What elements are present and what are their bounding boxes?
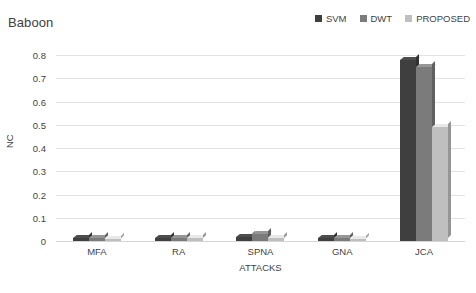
bar-group-mfa <box>56 55 138 241</box>
bar-svm-mfa[interactable] <box>73 238 89 241</box>
bar-proposed-spna[interactable] <box>268 238 284 241</box>
bar-proposed-mfa[interactable] <box>105 239 121 241</box>
bars <box>400 55 448 241</box>
y-axis-tick-label: 0.1 <box>6 212 46 223</box>
chart-legend: SVMDWTPROPOSED <box>315 13 470 24</box>
y-axis-tick-label: 0.2 <box>6 189 46 200</box>
legend-label: PROPOSED <box>416 13 470 24</box>
legend-swatch-icon <box>360 15 367 22</box>
x-axis-tick-label: RA <box>138 246 220 262</box>
legend-item-dwt[interactable]: DWT <box>360 13 393 24</box>
x-axis-tick-label: GNA <box>301 246 383 262</box>
legend-label: SVM <box>326 13 347 24</box>
bar-svm-jca[interactable] <box>400 60 416 241</box>
bar-svm-spna[interactable] <box>236 237 252 241</box>
chart-title: Baboon <box>8 15 53 30</box>
y-axis-tick-label: 0.4 <box>6 143 46 154</box>
bar-groups <box>56 55 465 241</box>
bar-group-spna <box>220 55 302 241</box>
y-axis-tick-label: 0.6 <box>6 96 46 107</box>
bars <box>236 55 284 241</box>
gridline <box>56 241 465 242</box>
y-axis-tick-labels: 0.80.70.60.50.40.30.20.10 <box>0 55 50 241</box>
bar-dwt-jca[interactable] <box>416 67 432 241</box>
y-axis-tick-label: 0.8 <box>6 50 46 61</box>
plot-area <box>56 55 465 241</box>
y-axis-tick-label: 0.7 <box>6 73 46 84</box>
legend-swatch-icon <box>315 15 322 22</box>
x-axis-tick-label: MFA <box>56 246 138 262</box>
legend-swatch-icon <box>405 15 412 22</box>
bar-dwt-gna[interactable] <box>334 238 350 241</box>
bar-group-ra <box>138 55 220 241</box>
x-axis-tick-labels: MFARASPNAGNAJCA <box>56 246 465 262</box>
bars <box>73 55 121 241</box>
x-axis-tick-label: SPNA <box>220 246 302 262</box>
bar-dwt-ra[interactable] <box>171 238 187 241</box>
bar-chart: Baboon SVMDWTPROPOSED NC 0.80.70.60.50.4… <box>0 0 476 293</box>
legend-label: DWT <box>371 13 393 24</box>
y-axis-tick-label: 0.3 <box>6 166 46 177</box>
bar-dwt-spna[interactable] <box>252 234 268 241</box>
bar-group-jca <box>383 55 465 241</box>
bar-svm-ra[interactable] <box>155 238 171 241</box>
y-axis-tick-label: 0 <box>6 236 46 247</box>
x-axis-tick-label: JCA <box>383 246 465 262</box>
bar-proposed-gna[interactable] <box>350 239 366 241</box>
bar-dwt-mfa[interactable] <box>89 238 105 241</box>
bar-svm-gna[interactable] <box>318 238 334 241</box>
y-axis-tick-label: 0.5 <box>6 119 46 130</box>
bar-group-gna <box>301 55 383 241</box>
bar-proposed-jca[interactable] <box>432 127 448 241</box>
bars <box>155 55 203 241</box>
bar-proposed-ra[interactable] <box>187 238 203 241</box>
legend-item-proposed[interactable]: PROPOSED <box>405 13 470 24</box>
bars <box>318 55 366 241</box>
legend-item-svm[interactable]: SVM <box>315 13 347 24</box>
x-axis-title: ATTACKS <box>56 262 465 273</box>
